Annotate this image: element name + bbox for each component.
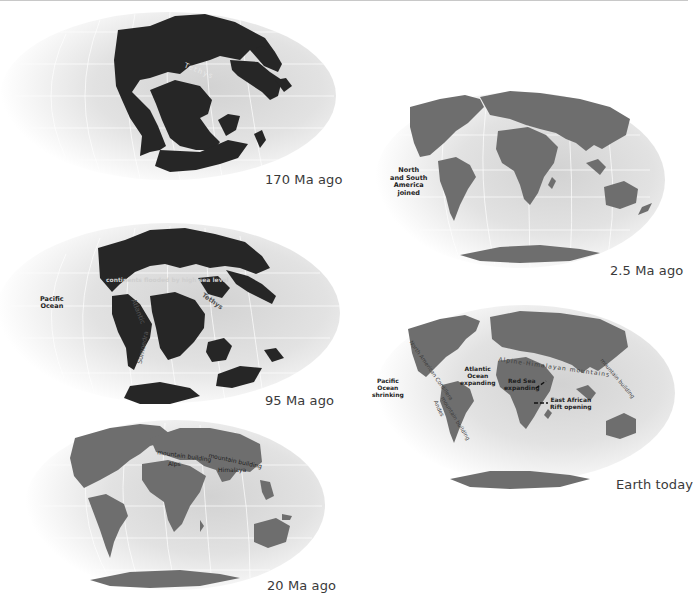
map-panel-2-5ma: North and South America joined 2.5 Ma ag… — [380, 85, 688, 295]
map-panel-170ma: Tethys 170 Ma ago — [0, 0, 360, 200]
globe-170ma — [0, 0, 360, 200]
map-panel-20ma: mountain building Alps mountain building… — [0, 420, 360, 605]
caption-170ma: 170 Ma ago — [265, 172, 342, 187]
label-pacific-ocean-95: Pacific Ocean — [40, 296, 64, 310]
label-himalaya: Himalaya — [218, 466, 246, 474]
rift-dash-marks — [370, 305, 688, 505]
map-panel-95ma: Pacific Ocean continents flooded by high… — [0, 218, 360, 428]
label-continents-flooded: continents flooded by high sea level — [106, 276, 229, 284]
caption-20ma: 20 Ma ago — [267, 578, 336, 593]
map-panel-today: Pacific Ocean shrinking Atlantic Ocean e… — [370, 305, 688, 505]
label-alps: Alps — [168, 460, 181, 468]
caption-95ma: 95 Ma ago — [265, 393, 334, 408]
caption-2-5ma: 2.5 Ma ago — [610, 263, 683, 278]
caption-today: Earth today — [616, 477, 693, 492]
label-americas-joined: North and South America joined — [390, 167, 427, 197]
